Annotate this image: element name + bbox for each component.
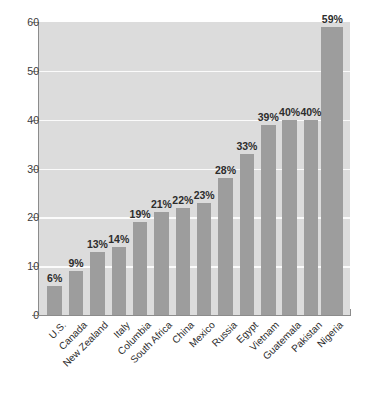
bar-value-label: 33% bbox=[231, 141, 263, 152]
bar bbox=[133, 222, 148, 315]
bar-chart: 0102030405060 6%9%13%14%19%21%22%23%28%3… bbox=[0, 0, 367, 394]
y-axis-tick-label: 10 bbox=[11, 261, 39, 272]
bar-value-label: 28% bbox=[210, 165, 242, 176]
bar-value-label: 14% bbox=[103, 234, 135, 245]
bar bbox=[218, 178, 233, 315]
x-axis-line bbox=[38, 315, 351, 316]
bar bbox=[197, 203, 212, 315]
bar bbox=[112, 247, 127, 315]
bar bbox=[176, 208, 191, 315]
bar-value-label: 19% bbox=[124, 209, 156, 220]
bar bbox=[90, 252, 105, 315]
gridline bbox=[39, 71, 350, 73]
plot-area bbox=[39, 22, 350, 315]
bar bbox=[321, 27, 343, 315]
y-axis-tick-label: 50 bbox=[11, 66, 39, 77]
y-axis-tick-label: 20 bbox=[11, 212, 39, 223]
bar bbox=[69, 271, 84, 315]
bar bbox=[240, 154, 255, 315]
y-axis-tick-label: 30 bbox=[11, 164, 39, 175]
bar bbox=[47, 286, 62, 315]
bar-value-label: 9% bbox=[60, 258, 92, 269]
bar bbox=[261, 125, 276, 315]
y-axis-tick-label: 0 bbox=[11, 310, 39, 321]
bar bbox=[304, 120, 319, 315]
bar-value-label: 59% bbox=[316, 14, 348, 25]
bar bbox=[282, 120, 297, 315]
y-axis-tick-label: 60 bbox=[11, 17, 39, 28]
bar-value-label: 23% bbox=[188, 190, 220, 201]
bar-value-label: 6% bbox=[39, 273, 71, 284]
bar-value-label: 40% bbox=[295, 107, 327, 118]
bar bbox=[154, 212, 169, 315]
y-axis-tick-label: 40 bbox=[11, 115, 39, 126]
x-axis-end-cap bbox=[350, 309, 351, 316]
